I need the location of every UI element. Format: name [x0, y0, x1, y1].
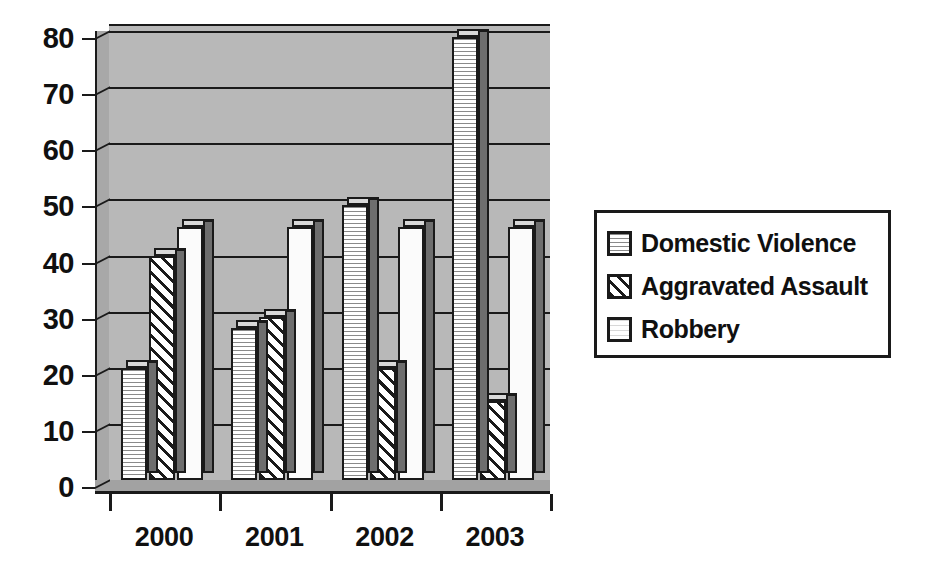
legend-item-label: Domestic Violence — [641, 231, 856, 256]
plot-area — [95, 24, 550, 494]
legend-swatch-icon — [607, 317, 632, 342]
y-axis-tick-mark — [82, 431, 95, 433]
x-axis-tick-label: 2003 — [465, 522, 524, 553]
bar-side-face — [203, 220, 214, 473]
bar-front-face — [342, 205, 368, 480]
x-axis-tick-mark — [109, 494, 112, 511]
bar-2002-domestic-violence[interactable] — [342, 205, 368, 480]
legend-item-label: Aggravated Assault — [641, 274, 868, 299]
legend-item-label: Robbery — [641, 317, 740, 342]
bar-side-face — [285, 310, 296, 473]
y-axis-tick-mark — [82, 38, 95, 40]
y-axis-tick-label: 50 — [43, 192, 74, 221]
y-axis-tick-label: 10 — [43, 416, 74, 445]
y-axis-tick-mark — [82, 206, 95, 208]
bar-front-face — [231, 328, 257, 480]
legend-swatch-icon — [607, 231, 632, 256]
bar-side-face — [313, 220, 324, 473]
bar-front-face — [121, 368, 147, 480]
y-axis-tick-mark — [82, 375, 95, 377]
y-axis-tick-mark — [82, 94, 95, 96]
bar-chart: 01020304050607080 2000200120022003 Domes… — [0, 0, 935, 575]
bar-2003-domestic-violence[interactable] — [452, 37, 478, 480]
y-axis-tick-mark — [82, 319, 95, 321]
x-axis-tick-mark — [219, 494, 222, 511]
y-axis-labels: 01020304050607080 — [0, 0, 74, 575]
y-axis-tick-label: 0 — [58, 473, 74, 502]
legend-item-domestic-violence[interactable]: Domestic Violence — [607, 222, 878, 265]
bar-side-face — [147, 361, 158, 473]
x-axis-tick-label: 2000 — [135, 522, 194, 553]
bar-side-face — [396, 361, 407, 473]
bar-front-face — [452, 37, 478, 480]
bar-side-face — [506, 394, 517, 473]
bar-2000-domestic-violence[interactable] — [121, 368, 147, 480]
y-axis-tick-mark — [82, 263, 95, 265]
y-axis-tick-label: 70 — [43, 80, 74, 109]
legend-item-robbery[interactable]: Robbery — [607, 308, 878, 351]
y-axis-tick-mark — [82, 487, 95, 489]
y-axis-tick-label: 80 — [43, 24, 74, 53]
x-axis-tick-label: 2002 — [355, 522, 414, 553]
bar-side-face — [478, 30, 489, 473]
bar-side-face — [534, 220, 545, 473]
x-axis-tick-mark — [330, 494, 333, 511]
y-axis-tick-mark — [82, 150, 95, 152]
y-axis-tick-label: 40 — [43, 248, 74, 277]
y-axis-tick-label: 20 — [43, 360, 74, 389]
chart-legend: Domestic ViolenceAggravated AssaultRobbe… — [594, 210, 891, 358]
bar-side-face — [368, 198, 379, 473]
legend-item-aggravated-assault[interactable]: Aggravated Assault — [607, 265, 878, 308]
bar-2001-domestic-violence[interactable] — [231, 328, 257, 480]
x-axis-tick-mark — [550, 494, 553, 511]
bar-side-face — [257, 321, 268, 473]
plot-floor — [95, 480, 550, 494]
bar-side-face — [175, 249, 186, 474]
y-axis-tick-label: 30 — [43, 304, 74, 333]
x-axis-tick-mark — [440, 494, 443, 511]
y-axis-tick-label: 60 — [43, 136, 74, 165]
x-axis-tick-label: 2001 — [245, 522, 304, 553]
legend-swatch-icon — [607, 274, 632, 299]
bar-side-face — [424, 220, 435, 473]
